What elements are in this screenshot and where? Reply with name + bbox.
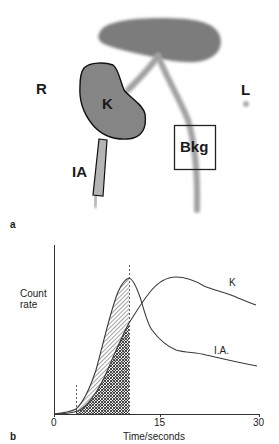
panel-b-chart (0, 0, 279, 444)
x-tick-label-0: 0 (51, 417, 57, 428)
x-tick-label-30: 30 (253, 417, 264, 428)
renogram-figure: R L K IA Bkg a Count rate K (0, 0, 279, 444)
panel-b-label: b (10, 431, 16, 442)
y-axis-label-line2: rate (20, 299, 37, 310)
y-axis-label-line1: Count (20, 288, 47, 299)
curve-label-kidney: K (229, 277, 236, 288)
x-axis-label: Time/seconds (123, 431, 185, 442)
curve-label-iliac-artery: I.A. (214, 345, 229, 356)
x-tick-label-15: 15 (154, 417, 165, 428)
